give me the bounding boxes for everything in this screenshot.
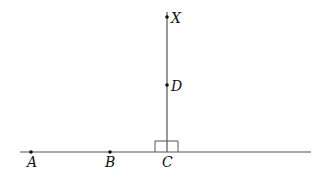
label-b: B: [104, 154, 115, 170]
label-d: D: [170, 78, 182, 94]
point-d: [165, 83, 169, 87]
geometry-diagram: A B C D X: [0, 0, 327, 181]
label-a: A: [25, 154, 37, 170]
label-x: X: [170, 10, 182, 26]
label-c: C: [162, 154, 173, 170]
point-x: [165, 15, 169, 19]
